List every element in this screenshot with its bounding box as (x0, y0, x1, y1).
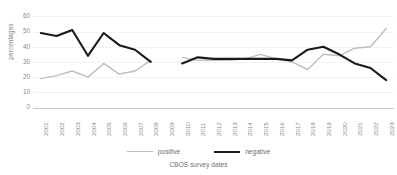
series-line-positive (41, 60, 151, 78)
legend-swatch-positive-icon (127, 151, 153, 152)
legend-swatch-negative-icon (214, 151, 240, 153)
legend-label-negative: negative (245, 148, 270, 155)
chart-legend: positive negative (0, 148, 397, 155)
legend-item-negative[interactable]: negative (214, 148, 270, 155)
series-line-negative (41, 30, 151, 62)
legend-item-positive[interactable]: positive (127, 148, 180, 155)
line-chart: percentages 0102030405060 20012002200320… (0, 0, 397, 175)
legend-label-positive: positive (158, 148, 180, 155)
series-line-negative (182, 47, 386, 80)
x-axis-title: CBOS survey dates (0, 161, 397, 168)
